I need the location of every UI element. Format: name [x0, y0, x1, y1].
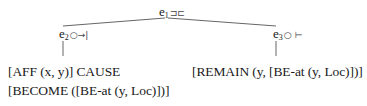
formula-line: [BECOME ([BE-at (y, Loc)])] — [8, 83, 169, 99]
formula-e2: [AFF (x, y)] CAUSE [BECOME ([BE-at (y, L… — [8, 64, 169, 99]
overlap-icon: ⊐⊏ — [170, 8, 185, 18]
node-index: 1 — [165, 11, 169, 20]
formula-line: [REMAIN (y, [BE-at (y, Loc)])] — [192, 64, 363, 80]
formula-line: [AFF (x, y)] CAUSE — [8, 64, 169, 80]
edge-e1-e2 — [63, 18, 165, 26]
formula-e3: [REMAIN (y, [BE-at (y, Loc)])] — [192, 64, 363, 80]
child-node-e2: e2○→| — [59, 27, 88, 44]
onset-state-icon: ○ ⊢ — [284, 30, 303, 40]
node-index: 2 — [65, 33, 69, 42]
bounded-process-icon: ○→| — [70, 30, 88, 40]
node-index: 3 — [279, 33, 283, 42]
root-node-e1: e1⊐⊏ — [159, 5, 185, 22]
child-node-e3: e3○ ⊢ — [273, 27, 302, 44]
